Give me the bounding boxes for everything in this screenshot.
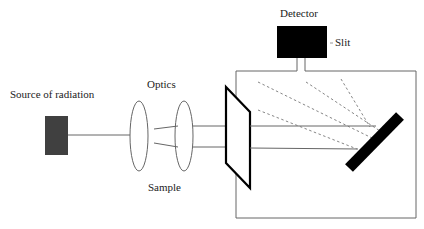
dispersed-rays — [258, 79, 380, 149]
diagram-canvas — [0, 0, 424, 229]
lens-2 — [175, 101, 193, 171]
source-label: Source of radiation — [10, 88, 94, 100]
diffraction-grating — [349, 116, 400, 168]
dispersed-ray-3 — [341, 79, 370, 127]
dispersed-ray-4 — [258, 110, 357, 149]
sample-cell — [226, 87, 250, 188]
beam-upper-between-lenses — [154, 126, 178, 129]
detector-block — [277, 26, 327, 58]
beam-lower-between-lenses — [154, 143, 178, 147]
lens-1 — [130, 101, 148, 171]
detector-label: Detector — [280, 7, 318, 19]
enclosure-box — [236, 71, 416, 218]
slit-label: Slit — [335, 36, 350, 48]
optics-label: Optics — [147, 78, 176, 90]
beam-lower-to-grating — [250, 148, 358, 149]
radiation-source-block — [45, 116, 68, 155]
dispersed-ray-1 — [258, 82, 372, 138]
dispersed-ray-2 — [306, 82, 380, 131]
sample-label: Sample — [148, 181, 181, 193]
